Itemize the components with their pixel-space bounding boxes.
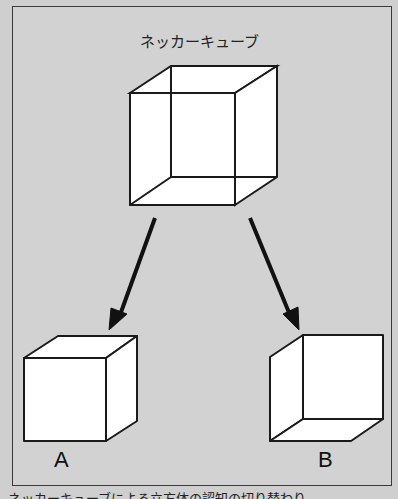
cube-a xyxy=(24,336,137,441)
cube-b xyxy=(270,335,383,441)
label-a: A xyxy=(54,447,69,473)
necker-cube xyxy=(130,66,277,205)
necker-cube-diagram xyxy=(0,0,398,499)
arrow-right-icon xyxy=(250,218,299,330)
label-b: B xyxy=(318,447,333,473)
arrow-left-icon xyxy=(109,218,155,330)
figure-caption: ネッカーキューブによる立方体の認知の切り替わり xyxy=(8,488,306,499)
